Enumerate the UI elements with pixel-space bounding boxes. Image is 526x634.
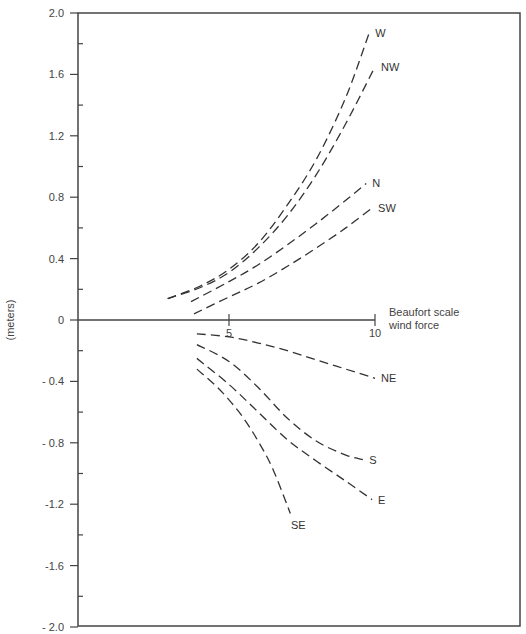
series-label-s: S bbox=[369, 454, 376, 466]
y-tick-label: 1.6 bbox=[49, 68, 64, 80]
x-axis-label-line-1: Beaufort scale bbox=[389, 306, 459, 318]
y-tick-label: 1.2 bbox=[49, 130, 64, 142]
series-curves bbox=[168, 33, 375, 513]
y-axis-label: (meters) bbox=[4, 300, 16, 341]
series-label-nw: NW bbox=[381, 61, 400, 73]
y-tick-label: 0 bbox=[58, 314, 64, 326]
series-label-sw: SW bbox=[378, 202, 396, 214]
y-tick-label: 0.4 bbox=[49, 253, 64, 265]
y-tick-label: - 0.8 bbox=[42, 437, 64, 449]
y-tick-label: 2.0 bbox=[49, 7, 64, 19]
x-axis-ticks: 510 bbox=[226, 314, 381, 339]
series-label-ne: NE bbox=[381, 372, 396, 384]
series-label-n: N bbox=[372, 177, 380, 189]
x-axis-label-line-2: wind force bbox=[388, 319, 439, 331]
series-label-se: SE bbox=[291, 519, 306, 531]
curve-se bbox=[197, 369, 290, 513]
curve-n bbox=[191, 183, 366, 301]
y-tick-label: - 2.0 bbox=[42, 621, 64, 633]
y-tick-label: -1.6 bbox=[45, 560, 64, 572]
curve-sw bbox=[194, 208, 372, 314]
y-tick-label: - 0.4 bbox=[42, 375, 64, 387]
x-tick-label: 10 bbox=[369, 327, 381, 339]
series-label-w: W bbox=[375, 27, 386, 39]
curve-ne bbox=[197, 334, 375, 379]
series-label-e: E bbox=[378, 494, 385, 506]
curve-s bbox=[197, 345, 363, 460]
series-labels: WNWNSWNESESE bbox=[291, 27, 400, 531]
y-axis-ticks: 2.01.61.20.80.40- 0.4- 0.8-1.2-1.6- 2.0 bbox=[42, 7, 83, 633]
curve-e bbox=[197, 358, 372, 499]
y-tick-label: 0.8 bbox=[49, 191, 64, 203]
y-tick-label: -1.2 bbox=[45, 498, 64, 510]
wind-setup-chart: 2.01.61.20.80.40- 0.4- 0.8-1.2-1.6- 2.0 … bbox=[0, 0, 526, 634]
